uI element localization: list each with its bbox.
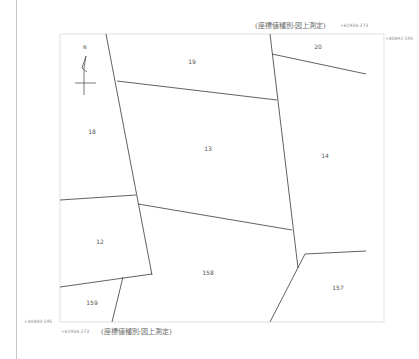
parcel-label-19: 19 [188,58,196,65]
parcel-label-157: 157 [332,284,343,291]
coord-bottom-x: +61934.273 [61,329,89,334]
north-arrow-icon [75,56,96,95]
parcel-label-159: 159 [86,299,97,306]
coord-top-x: +61934.273 [340,23,368,28]
coord-top-y: +40492.595 [385,36,413,41]
parcel-label-158: 158 [202,269,213,276]
parcel-label-18: 18 [88,128,96,135]
parcel-boundaries [60,34,366,322]
map-frame [60,34,384,322]
coord-bottom-y: +40440.595 [24,319,52,324]
parcel-label-14: 14 [321,152,329,159]
coord-type-top: (座標値種別:図上測定) [255,20,326,30]
compass-north-label: N [83,44,87,50]
coord-type-bottom: (座標値種別:図上測定) [101,326,172,336]
parcel-label-20: 20 [314,43,322,50]
cadastral-map [0,0,419,359]
parcel-label-12: 12 [96,238,104,245]
parcel-label-13: 13 [204,145,212,152]
